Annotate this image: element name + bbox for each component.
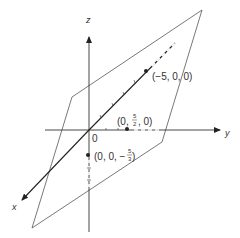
y-axis-label: y <box>224 128 230 138</box>
svg-text:(0, 0, −: (0, 0, − <box>94 151 126 162</box>
y-axis <box>45 128 220 130</box>
point-z-intercept-label: (0, 0, − 5 3 ) <box>94 148 135 162</box>
x-tick <box>100 115 101 118</box>
diagram-canvas: z y x 0 (−5, 0, 0) (0, 5 2 , 0) (0, 0, −… <box>0 0 240 238</box>
z-axis-label: z <box>85 15 91 25</box>
x-tick <box>134 80 135 83</box>
x-axis-label: x <box>11 202 17 212</box>
svg-text:2: 2 <box>133 121 137 127</box>
z-axis <box>87 37 91 232</box>
point-x-intercept-label: (−5, 0, 0) <box>152 71 192 82</box>
svg-text:): ) <box>132 151 135 162</box>
origin-label: 0 <box>92 133 98 144</box>
svg-text:, 0): , 0) <box>138 116 152 127</box>
svg-text:(0,: (0, <box>117 116 129 127</box>
point-y-intercept-label: (0, 5 2 , 0) <box>117 113 152 127</box>
point-z-intercept <box>86 153 90 157</box>
point-x-intercept <box>144 69 148 73</box>
svg-text:5: 5 <box>133 113 137 119</box>
point-y-intercept <box>125 127 129 131</box>
